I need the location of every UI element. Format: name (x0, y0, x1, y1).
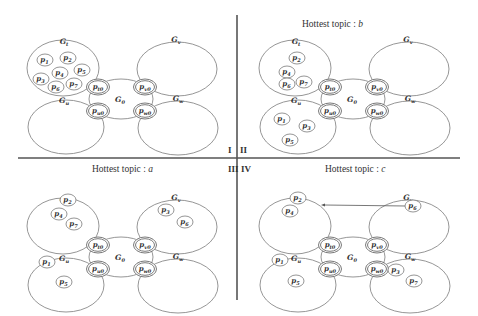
gateway-pw0: pw0 (366, 103, 389, 119)
arrow-line (324, 205, 406, 206)
gateway-label-subscript: t0 (98, 86, 104, 92)
peer-label-subscript: 3 (307, 125, 311, 131)
gateway-pw0: pw0 (366, 261, 389, 277)
hottest-topic-title: Hottest topic : c (325, 164, 386, 174)
gateway-label-subscript: w0 (376, 268, 384, 274)
peer-label-subscript: 5 (82, 69, 86, 75)
peer-label-subscript: 4 (287, 71, 291, 77)
gateway-label-subscript: v0 (144, 244, 151, 250)
group-gw-label-subscript: w (411, 98, 416, 104)
group-g0-label: G0 (115, 95, 125, 105)
hottest-topic-title: Hottest topic : a (92, 164, 153, 174)
group-g0-label-subscript: 0 (353, 99, 357, 105)
peer-label-subscript: 7 (414, 280, 418, 286)
peer-p5: p5 (56, 276, 72, 288)
group-gv-label: Gv (403, 35, 412, 45)
quadrant-numeral: III (228, 164, 239, 174)
gateway-pu0: pu0 (319, 103, 342, 119)
quadrant-iii: GtGvGuGwG0pt0pv0pu0pw0p2p4p7p3p6p1p5Hott… (27, 164, 239, 313)
peer-p4: p4 (51, 208, 67, 220)
quadrant-iv: GtGvGuGwG0pt0pv0pu0pw0p2p4p6p1p5p3p7Hott… (241, 164, 450, 313)
gateway-label-subscript: u0 (97, 110, 105, 116)
gateway-label-subscript: v0 (376, 244, 383, 250)
gateway-label-subscript: w0 (376, 110, 384, 116)
gateway-label-subscript: w0 (144, 110, 152, 116)
arrow-head-icon (321, 203, 325, 206)
gateway-label-subscript: u0 (97, 268, 105, 274)
group-gt-label: Gt (292, 37, 301, 47)
title-text: Hottest topic : (302, 19, 358, 29)
gateway-pw0: pw0 (134, 261, 157, 277)
gateway-pu0: pu0 (87, 103, 110, 119)
gateway-pu0: pu0 (319, 261, 342, 277)
topic-propagation-diagram: GtGvGuGwG0pt0pv0pu0pw0p1p2p3p4p5p6p7IGtG… (0, 0, 478, 316)
peer-p5: p5 (74, 64, 90, 76)
group-g0-label: G0 (115, 253, 125, 263)
topic-variable: b (358, 19, 363, 29)
peer-label-subscript: 5 (64, 281, 68, 287)
peer-label-subscript: 1 (280, 259, 283, 265)
quadrant-numeral: I (228, 145, 232, 155)
peer-label-subscript: 7 (74, 83, 78, 89)
group-gu-label-subscript: u (297, 100, 301, 106)
title-text: Hottest topic : (325, 164, 381, 174)
group-gu-label-subscript: u (65, 258, 69, 264)
peer-p7: p7 (406, 275, 422, 287)
peer-p7: p7 (66, 218, 82, 230)
gateway-pt0: pt0 (87, 237, 110, 253)
gateway-pv0: pv0 (366, 79, 389, 95)
peer-p3: p3 (388, 264, 404, 276)
gateway-pv0: pv0 (134, 79, 157, 95)
group-g0-label-subscript: 0 (121, 99, 125, 105)
gateway-label-subscript: t0 (330, 86, 336, 92)
group-gu-label-subscript: u (297, 258, 301, 264)
gateway-pw0: pw0 (134, 103, 157, 119)
quadrant-i: GtGvGuGwG0pt0pv0pu0pw0p1p2p3p4p5p6p7I (27, 35, 232, 155)
gateway-label-subscript: t0 (330, 244, 336, 250)
group-gw-label-subscript: w (179, 98, 184, 104)
peer-label-subscript: 6 (413, 205, 417, 211)
peer-label-subscript: 6 (56, 86, 60, 92)
peer-p5: p5 (288, 275, 304, 287)
group-gu-label: Gu (59, 96, 69, 106)
gateway-pt0: pt0 (87, 79, 110, 95)
peer-label-subscript: 7 (304, 81, 308, 87)
group-gt-label: Gt (60, 37, 69, 47)
group-g0-label-subscript: 0 (353, 257, 357, 263)
peer-p1: p1 (37, 54, 53, 66)
peer-p6: p6 (48, 81, 64, 93)
group-g0-label: G0 (347, 253, 357, 263)
peer-p7: p7 (66, 78, 82, 90)
peer-label-subscript: 4 (290, 210, 294, 216)
peer-p3: p3 (33, 73, 49, 85)
gateway-label-subscript: w0 (144, 268, 152, 274)
group-gv-label-subscript: v (410, 39, 413, 45)
group-g0-label-subscript: 0 (121, 257, 125, 263)
peer-label-subscript: 7 (74, 223, 78, 229)
peer-label-subscript: 3 (166, 209, 170, 215)
peer-p1: p1 (274, 113, 290, 125)
migration-arrow (321, 203, 406, 206)
quadrant-ii: GtGvGuGwG0pt0pv0pu0pw0p2p4p6p7p1p3p5Hott… (240, 19, 450, 155)
diagram-canvas: GtGvGuGwG0pt0pv0pu0pw0p1p2p3p4p5p6p7IGtG… (0, 0, 478, 316)
gateway-pv0: pv0 (366, 237, 389, 253)
group-gu-label: Gu (291, 254, 301, 264)
peer-label-subscript: 2 (296, 57, 301, 63)
gateway-pv0: pv0 (134, 237, 157, 253)
quadrant-numeral: II (240, 145, 248, 155)
group-g0-label: G0 (347, 95, 357, 105)
group-gw-label-subscript: w (179, 256, 184, 262)
peer-p2: p2 (60, 52, 76, 64)
quadrant-numeral: IV (241, 164, 252, 174)
gateway-label-subscript: v0 (376, 86, 383, 92)
gateway-label-subscript: t0 (98, 244, 104, 250)
peer-label-subscript: 5 (290, 139, 294, 145)
gateway-pu0: pu0 (87, 261, 110, 277)
hottest-topic-title: Hottest topic : b (302, 19, 363, 29)
group-gv-label: Gv (171, 35, 180, 45)
peer-p1: p1 (272, 254, 288, 266)
group-gt-label-subscript: t (298, 41, 301, 47)
peer-label-subscript: 1 (282, 118, 285, 124)
gateway-label-subscript: v0 (144, 86, 151, 92)
gateway-pt0: pt0 (319, 237, 342, 253)
